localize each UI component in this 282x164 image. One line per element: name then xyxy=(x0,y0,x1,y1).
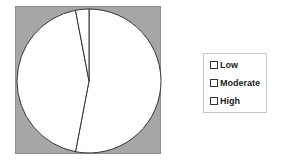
legend-swatch-icon xyxy=(210,79,218,87)
legend-label: High xyxy=(220,96,240,106)
legend-item-low: Low xyxy=(210,60,238,70)
plot-area xyxy=(15,6,161,154)
pie-slice-moderate xyxy=(17,10,89,151)
legend-label: Low xyxy=(220,60,238,70)
legend: Low Moderate High xyxy=(203,53,267,113)
legend-item-moderate: Moderate xyxy=(210,78,260,88)
legend-label: Moderate xyxy=(220,78,260,88)
legend-swatch-icon xyxy=(210,97,218,105)
legend-item-high: High xyxy=(210,96,240,106)
pie-chart xyxy=(16,7,162,155)
legend-swatch-icon xyxy=(210,61,218,69)
